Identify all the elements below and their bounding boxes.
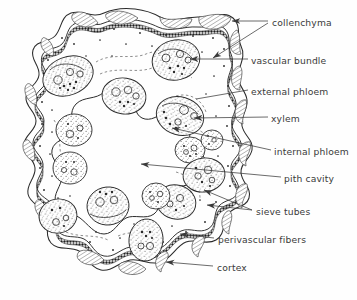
leader-xylem xyxy=(194,117,268,118)
vascular-bundle xyxy=(85,185,131,227)
label-sieve-tubes: sieve tubes xyxy=(256,206,310,217)
label-pith-cavity: pith cavity xyxy=(284,173,335,184)
vascular-bundle xyxy=(53,152,87,184)
vascular-bundles xyxy=(36,35,227,263)
label-xylem: xylem xyxy=(271,113,300,124)
label-perivascular-fibers: perivascular fibers xyxy=(218,234,306,245)
diagram-canvas: collenchyma vascular bundle external phl… xyxy=(0,0,357,300)
label-collenchyma: collenchyma xyxy=(272,17,332,28)
leader-cortex xyxy=(166,262,213,266)
stem-cross-section-figure: collenchyma vascular bundle external phl… xyxy=(0,0,357,300)
vascular-bundle xyxy=(142,183,170,209)
vascular-bundle xyxy=(201,130,223,150)
label-cortex: cortex xyxy=(217,262,247,273)
label-vascular-bundle: vascular bundle xyxy=(251,55,327,66)
label-texts: collenchyma vascular bundle external phl… xyxy=(217,17,349,273)
label-internal-phloem: internal phloem xyxy=(274,146,349,157)
vascular-bundle xyxy=(148,35,204,85)
vascular-bundle xyxy=(100,75,149,117)
label-external-phloem: external phloem xyxy=(251,86,328,97)
vascular-bundle xyxy=(56,114,92,146)
leader-external-phloem xyxy=(196,90,248,99)
